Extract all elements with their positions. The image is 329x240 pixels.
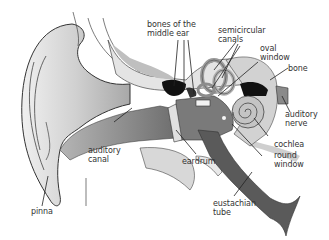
label-eustachian-tube: eustachian tube (213, 199, 256, 217)
label-cochlea: cochlea (274, 140, 304, 149)
label-pinna: pinna (31, 207, 53, 216)
label-bones-of-the-middle-ear: bones of the middle ear (147, 20, 196, 38)
label-round-window: round window (274, 151, 304, 169)
label-auditory-nerve: auditory nerve (285, 110, 318, 128)
label-bone: bone (288, 64, 308, 73)
label-semicircular-canals: semicircular canals (218, 26, 266, 44)
label-auditory-canal: auditory canal (88, 146, 121, 164)
label-oval-window: oval window (260, 44, 290, 62)
auditory-nerve-shape (276, 86, 288, 104)
label-eardrum: eardrum (182, 157, 216, 166)
